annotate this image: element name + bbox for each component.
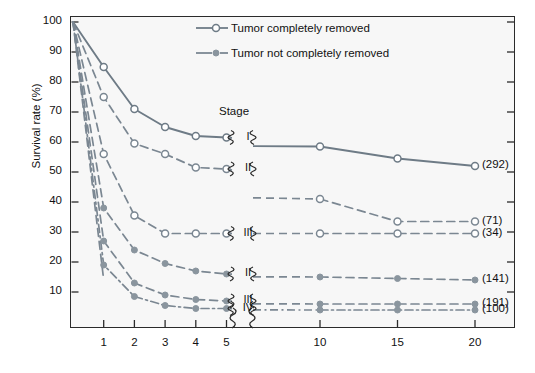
data-point-marker: [162, 292, 168, 298]
data-point-marker: [100, 151, 107, 158]
data-point-marker: [100, 64, 107, 71]
data-point-marker: [131, 212, 138, 219]
data-point-marker: [223, 230, 230, 237]
data-point-marker: [223, 166, 230, 173]
stage-label-IV-5: IV: [235, 301, 261, 313]
data-point-marker: [394, 230, 401, 237]
data-point-marker: [193, 306, 199, 312]
data-point-marker: [395, 276, 401, 282]
data-point-marker: [317, 274, 323, 280]
data-point-marker: [131, 140, 138, 147]
axis-tick-marks: [72, 22, 515, 327]
data-point-marker: [192, 164, 199, 171]
data-point-marker: [317, 196, 324, 203]
series-count-2: (34): [482, 226, 502, 238]
data-point-marker: [162, 124, 169, 131]
data-point-marker: [162, 303, 168, 309]
data-point-marker: [192, 230, 199, 237]
series-count-3: (141): [482, 272, 509, 284]
data-point-marker: [131, 247, 137, 253]
data-point-marker: [162, 230, 169, 237]
data-point-marker: [317, 230, 324, 237]
data-point-marker: [162, 151, 169, 158]
series-count-1: (71): [482, 214, 502, 226]
data-point-marker: [101, 262, 107, 268]
data-point-marker: [472, 277, 478, 283]
legend-sample-lines: [196, 25, 228, 57]
data-point-marker: [472, 218, 479, 225]
legend-item-completely-removed: Tumor completely removed: [231, 22, 370, 34]
legend-item-not-completely-removed: Tumor not completely removed: [231, 47, 389, 59]
series-line: [73, 22, 227, 301]
data-point-marker: [100, 94, 107, 101]
data-point-marker: [193, 268, 199, 274]
series-line: [73, 22, 227, 138]
stage-header-label: Stage: [219, 105, 249, 117]
series-markers: [100, 64, 478, 314]
data-point-marker: [394, 218, 401, 225]
series-count-0: (292): [482, 158, 509, 170]
stage-label-II-3: II: [235, 266, 261, 278]
data-point-marker: [472, 230, 479, 237]
series-line: [73, 22, 227, 169]
data-point-marker: [223, 134, 230, 141]
series-count-5: (100): [482, 302, 509, 314]
data-point-marker: [131, 106, 138, 113]
data-point-marker: [395, 301, 401, 307]
stage-label-II-1: II: [235, 161, 261, 173]
data-point-marker: [317, 301, 323, 307]
stage-label-III-2: III: [235, 226, 261, 238]
data-point-marker: [193, 297, 199, 303]
data-point-marker: [394, 155, 401, 162]
data-point-marker: [395, 307, 401, 313]
survival-chart-figure: Survival rate (%) 102030405060708090100 …: [0, 0, 535, 373]
data-point-marker: [131, 294, 137, 300]
stage-label-I-0: I: [235, 130, 261, 142]
data-point-marker: [317, 307, 323, 313]
data-point-marker: [131, 280, 137, 286]
data-point-marker: [472, 163, 479, 170]
data-point-marker: [472, 301, 478, 307]
data-point-marker: [317, 143, 324, 150]
data-point-marker: [472, 307, 478, 313]
series-line: [73, 22, 227, 274]
data-point-marker: [162, 261, 168, 267]
data-point-marker: [192, 133, 199, 140]
data-point-marker: [101, 205, 107, 211]
data-point-marker: [101, 238, 107, 244]
series-lines: [73, 22, 475, 310]
